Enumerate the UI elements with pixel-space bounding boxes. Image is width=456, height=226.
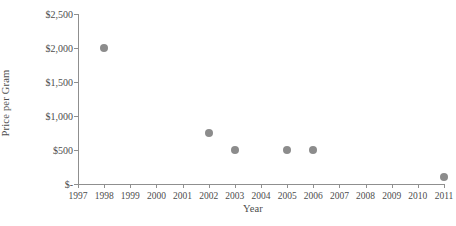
- y-tick-label: $1,500: [46, 77, 74, 88]
- x-tick-label: 2007: [330, 191, 349, 201]
- data-point: [309, 146, 317, 154]
- x-tick-label: 1998: [95, 191, 114, 201]
- x-axis-title: Year: [78, 203, 428, 214]
- x-tick-label: 2010: [408, 191, 427, 201]
- x-tick-mark: [418, 184, 419, 188]
- x-tick-mark: [209, 184, 210, 188]
- scatter-chart: Price per Gram $2,500$2,000$1,500$1,000$…: [0, 0, 456, 226]
- data-point: [440, 173, 448, 181]
- y-tick-label: $-: [65, 179, 73, 190]
- x-tick-label: 2006: [304, 191, 323, 201]
- y-tick-mark: [74, 82, 78, 83]
- x-tick-mark: [261, 184, 262, 188]
- y-tick-mark: [74, 48, 78, 49]
- x-tick-mark: [444, 184, 445, 188]
- data-point: [231, 146, 239, 154]
- x-tick-mark: [183, 184, 184, 188]
- x-tick-mark: [313, 184, 314, 188]
- x-tick-label: 2005: [278, 191, 297, 201]
- x-tick-mark: [104, 184, 105, 188]
- x-tick-mark: [78, 184, 79, 188]
- x-tick-label: 2009: [382, 191, 401, 201]
- x-tick-mark: [287, 184, 288, 188]
- y-tick-mark: [74, 150, 78, 151]
- y-axis-line: [78, 14, 79, 184]
- x-tick-mark: [235, 184, 236, 188]
- x-tick-label: 2004: [252, 191, 271, 201]
- x-tick-label: 2000: [147, 191, 166, 201]
- x-tick-label: 2003: [225, 191, 244, 201]
- x-tick-mark: [156, 184, 157, 188]
- x-tick-label: 1999: [121, 191, 140, 201]
- y-tick-label: $1,000: [46, 111, 74, 122]
- x-tick-mark: [366, 184, 367, 188]
- x-tick-label: 2011: [435, 191, 454, 201]
- x-tick-label: 1997: [69, 191, 88, 201]
- x-tick-label: 2001: [173, 191, 192, 201]
- y-axis-title: Price per Gram: [0, 10, 18, 196]
- y-tick-label: $2,000: [46, 43, 74, 54]
- x-tick-label: 2002: [199, 191, 218, 201]
- y-tick-label: $500: [53, 145, 73, 156]
- plot-area: $2,500$2,000$1,500$1,000$500$- 199719981…: [78, 14, 444, 184]
- x-tick-mark: [392, 184, 393, 188]
- y-tick-label: $2,500: [46, 9, 74, 20]
- y-tick-mark: [74, 116, 78, 117]
- y-tick-mark: [74, 14, 78, 15]
- data-point: [283, 146, 291, 154]
- data-point: [205, 129, 213, 137]
- x-tick-mark: [130, 184, 131, 188]
- x-tick-mark: [339, 184, 340, 188]
- x-tick-label: 2008: [356, 191, 375, 201]
- data-point: [100, 44, 108, 52]
